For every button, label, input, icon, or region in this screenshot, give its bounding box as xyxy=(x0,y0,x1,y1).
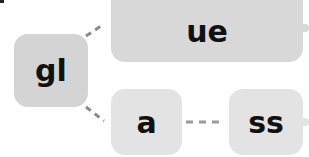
node-label: gl xyxy=(35,53,67,88)
node-ss[interactable]: ss xyxy=(229,89,303,155)
node-label: ss xyxy=(248,105,284,140)
node-a[interactable]: a xyxy=(111,89,182,155)
node-label: a xyxy=(136,105,156,140)
edge-gl-ue xyxy=(86,24,104,36)
node-root[interactable]: gl xyxy=(14,34,88,107)
edge-gl-a xyxy=(86,107,104,121)
node-ue[interactable]: ue xyxy=(111,0,303,62)
node-label: ue xyxy=(186,14,228,49)
corner-mark xyxy=(0,0,4,3)
